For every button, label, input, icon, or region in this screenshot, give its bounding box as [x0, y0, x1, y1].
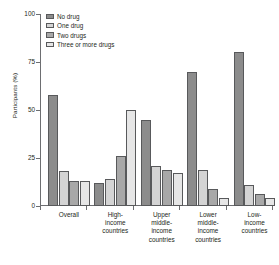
x-tick-mark: [133, 206, 134, 210]
bar: [141, 120, 151, 206]
chart-legend: No drugOne drugTwo drugsThree or more dr…: [46, 12, 136, 50]
bar: [105, 179, 115, 206]
y-tick-label: 75: [28, 58, 35, 65]
bar: [208, 189, 218, 206]
bar: [59, 171, 69, 206]
y-tick-label: 0: [31, 202, 35, 209]
x-axis-group-label-line: countries: [227, 227, 279, 235]
legend-swatch-icon: [46, 32, 54, 38]
y-axis-title: Participants (%): [11, 56, 18, 136]
bar: [219, 198, 229, 206]
bar-group: [141, 14, 183, 206]
bar: [94, 183, 104, 206]
bar: [126, 110, 136, 206]
bar: [80, 181, 90, 206]
bar-group: [234, 14, 276, 206]
x-tick-mark: [40, 206, 41, 210]
x-tick-mark: [179, 206, 180, 210]
y-axis-line: [40, 14, 41, 206]
y-tick-mark: [36, 62, 40, 63]
x-axis-group-label: Low-incomecountries: [227, 211, 279, 236]
legend-label: Two drugs: [57, 32, 86, 39]
x-axis-group-label-line: income: [227, 219, 279, 227]
bar-chart: Participants (%) 0255075100 OverallHigh-…: [0, 0, 278, 265]
legend-swatch-icon: [46, 42, 54, 48]
x-tick-mark: [86, 206, 87, 210]
x-axis-group-label-line: Low-: [227, 211, 279, 219]
bar: [244, 185, 254, 206]
y-tick-label: 100: [24, 10, 35, 17]
legend-label: Three or more drugs: [57, 41, 114, 48]
y-tick-mark: [36, 158, 40, 159]
x-tick-mark: [226, 206, 227, 210]
legend-item: Three or more drugs: [46, 40, 136, 49]
legend-item: No drug: [46, 12, 136, 21]
bar: [234, 52, 244, 206]
bar: [48, 95, 58, 206]
legend-swatch-icon: [46, 14, 54, 20]
bar: [187, 72, 197, 206]
y-tick-mark: [36, 110, 40, 111]
bar: [69, 181, 79, 206]
x-axis-group-label-line: countries: [180, 236, 236, 244]
bar: [173, 173, 183, 206]
bar: [162, 170, 172, 206]
y-tick-mark: [36, 14, 40, 15]
bar-group: [187, 14, 229, 206]
legend-item: One drug: [46, 21, 136, 30]
legend-swatch-icon: [46, 23, 54, 29]
y-tick-label: 50: [28, 106, 35, 113]
legend-item: Two drugs: [46, 31, 136, 40]
bar: [265, 198, 275, 206]
bar: [255, 194, 265, 206]
legend-label: No drug: [57, 13, 79, 20]
y-tick-label: 25: [28, 154, 35, 161]
bar: [151, 166, 161, 206]
x-tick-mark: [272, 206, 273, 210]
bar: [198, 170, 208, 206]
bar: [116, 156, 126, 206]
legend-label: One drug: [57, 22, 83, 29]
